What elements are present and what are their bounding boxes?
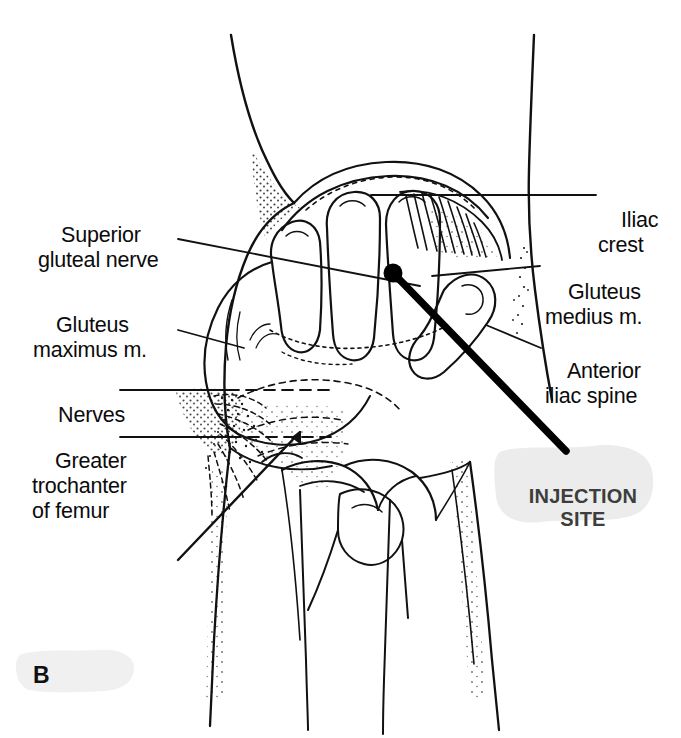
label-anterior-iliac-spine-text: Anterior iliac spine bbox=[545, 359, 641, 408]
label-greater-trochanter-of-femur: Greater trochanter of femur bbox=[32, 424, 127, 549]
label-gluteus-medius-text: Gluteus medius m. bbox=[545, 280, 642, 329]
panel-letter: B bbox=[33, 662, 50, 689]
label-gluteus-maximus-text: Gluteus maximus m. bbox=[33, 313, 147, 362]
panel-letter-text: B bbox=[33, 662, 50, 688]
label-anterior-iliac-spine: Anterior iliac spine bbox=[545, 334, 641, 434]
injection-pointer bbox=[384, 264, 567, 452]
injection-site-label: INJECTION SITE bbox=[508, 462, 658, 531]
anatomy-figure: Superior gluteal nerve Gluteus maximus m… bbox=[0, 0, 681, 738]
injection-site-text: INJECTION SITE bbox=[529, 485, 637, 530]
label-iliac-crest-text: Iliac crest bbox=[598, 208, 658, 257]
label-greater-trochanter-text: Greater trochanter of femur bbox=[32, 449, 127, 523]
label-superior-gluteal-nerve: Superior gluteal nerve bbox=[38, 198, 159, 298]
label-superior-gluteal-nerve-text: Superior gluteal nerve bbox=[38, 223, 159, 272]
label-gluteus-maximus: Gluteus maximus m. bbox=[33, 288, 147, 388]
